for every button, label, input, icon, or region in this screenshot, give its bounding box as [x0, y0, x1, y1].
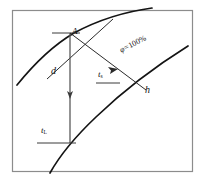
label-moisture-content: d	[51, 66, 56, 76]
diagram-frame	[13, 11, 193, 172]
label-enthalpy: h	[145, 85, 150, 95]
label-wet-bulb-temperature: ts	[98, 70, 103, 80]
wet-bulb-subscript: s	[101, 73, 103, 79]
diagram-svg	[0, 0, 203, 190]
label-point-a: A	[72, 27, 78, 36]
dry-bulb-subscript: L	[44, 129, 47, 135]
diagram-canvas: A d h ts tL φ=100%	[0, 0, 203, 190]
label-dry-bulb-temperature: tL	[41, 126, 47, 136]
